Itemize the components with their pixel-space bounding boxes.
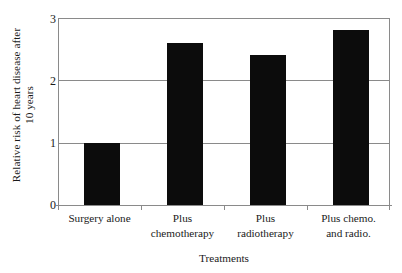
plot-area bbox=[58, 18, 390, 205]
y-tick-label-2: 2 bbox=[36, 75, 56, 87]
y-tick-label-1: 1 bbox=[36, 137, 56, 149]
x-tick-mark-2 bbox=[224, 205, 225, 210]
bar-chart-figure: Relative risk of heart disease after 10 … bbox=[0, 0, 402, 273]
x-category-label-0-line-1: Surgery alone bbox=[58, 211, 141, 226]
x-category-label-3-line-2: and radio. bbox=[307, 226, 390, 241]
y-tick-label-3: 3 bbox=[36, 13, 56, 25]
gridline-3 bbox=[59, 18, 389, 19]
x-category-label-2: Plus radiotherapy bbox=[224, 211, 307, 240]
x-axis-category-labels: Surgery alone Plus chemotherapy Plus rad… bbox=[58, 211, 390, 249]
x-category-label-3-line-1: Plus chemo. bbox=[307, 211, 390, 226]
x-tick-mark-4 bbox=[389, 205, 390, 210]
bar-plus-chemo-and-radio bbox=[333, 30, 369, 205]
x-tick-mark-3 bbox=[307, 205, 308, 210]
x-axis-title: Treatments bbox=[58, 252, 390, 265]
y-tick-label-0: 0 bbox=[36, 199, 56, 211]
bar-surgery-alone bbox=[84, 143, 120, 205]
x-category-label-3: Plus chemo. and radio. bbox=[307, 211, 390, 240]
x-tick-mark-1 bbox=[141, 205, 142, 210]
y-axis-tick-labels: 0 1 2 3 bbox=[36, 0, 56, 273]
x-category-label-1: Plus chemotherapy bbox=[141, 211, 224, 240]
x-category-label-1-line-1: Plus bbox=[141, 211, 224, 226]
bar-plus-radiotherapy bbox=[250, 55, 286, 205]
y-axis-title-line-1: Relative risk of heart disease after bbox=[10, 28, 23, 182]
bar-plus-chemotherapy bbox=[167, 43, 203, 205]
x-category-label-0: Surgery alone bbox=[58, 211, 141, 226]
x-tick-mark-0 bbox=[58, 205, 59, 210]
x-category-label-2-line-2: radiotherapy bbox=[224, 226, 307, 241]
x-category-label-1-line-2: chemotherapy bbox=[141, 226, 224, 241]
y-axis-title-line-2: 10 years bbox=[23, 28, 36, 182]
x-category-label-2-line-1: Plus bbox=[224, 211, 307, 226]
